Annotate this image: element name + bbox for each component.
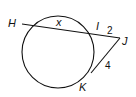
segment-label-x: x — [55, 16, 62, 28]
segment-label-2: 2 — [107, 25, 113, 36]
point-label-h: H — [8, 17, 16, 29]
point-label-k: K — [79, 81, 87, 93]
geometry-diagram: H x I 2 J 4 K — [0, 0, 136, 97]
secant-segment-hj — [22, 24, 120, 38]
point-label-j: J — [121, 35, 128, 47]
segment-label-4: 4 — [105, 60, 111, 71]
point-label-i: I — [96, 20, 99, 32]
